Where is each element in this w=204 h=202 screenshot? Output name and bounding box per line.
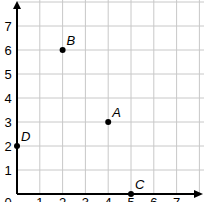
point-c-marker [128,191,134,197]
grid-lines [17,0,204,194]
x-tick-label: 0 [4,195,11,202]
x-tick-label: 2 [59,195,66,202]
point-c-label: C [135,177,145,192]
points: ABCD [14,33,145,197]
point-a-marker [105,119,111,125]
point-a-label: A [111,105,121,120]
x-tick-label: 6 [150,195,157,202]
y-tick-label: 2 [4,139,11,154]
y-tick-label: 5 [4,67,11,82]
coordinate-plane-svg: 012345671234567 ABCD [0,0,204,202]
y-tick-label: 6 [4,43,11,58]
x-tick-label: 4 [105,195,112,202]
y-tick-label: 7 [4,19,11,34]
x-tick-label: 1 [36,195,43,202]
y-tick-label: 3 [4,115,11,130]
x-axis-arrow-icon [194,190,203,198]
point-d-label: D [21,129,30,144]
point-b-label: B [67,33,76,48]
point-d-marker [14,143,20,149]
x-tick-label: 7 [173,195,180,202]
y-tick-label: 4 [4,91,11,106]
point-b-marker [60,47,66,53]
coordinate-plane: 012345671234567 ABCD [0,0,204,202]
x-tick-label: 3 [82,195,89,202]
y-tick-label: 1 [4,163,11,178]
